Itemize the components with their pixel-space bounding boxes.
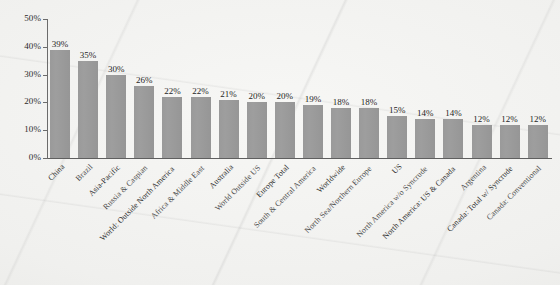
- bar-series: 39%35%30%26%22%22%21%20%20%19%18%18%15%1…: [48, 0, 556, 285]
- y-axis-tick-label: 0%: [1, 153, 41, 162]
- bar: [472, 125, 492, 158]
- bar-value-label: 26%: [136, 76, 153, 85]
- bar-value-label: 19%: [305, 95, 322, 104]
- bar: [303, 105, 323, 158]
- bar: [500, 125, 520, 158]
- bar: [247, 102, 267, 158]
- bar-value-label: 14%: [417, 109, 434, 118]
- bar-group: 22%: [162, 97, 182, 158]
- bar-value-label: 20%: [248, 92, 265, 101]
- y-axis-tick-label: 30%: [1, 70, 41, 79]
- bar-value-label: 12%: [529, 115, 546, 124]
- bar-group: 14%: [443, 119, 463, 158]
- bar-value-label: 35%: [80, 51, 97, 60]
- bar-group: 30%: [106, 75, 126, 158]
- bar-group: 12%: [528, 125, 548, 158]
- bar-group: 35%: [78, 61, 98, 158]
- bar: [528, 125, 548, 158]
- bar-value-label: 18%: [361, 98, 378, 107]
- y-axis-tick-label: 40%: [1, 42, 41, 51]
- bar-group: 18%: [359, 108, 379, 158]
- bar: [415, 119, 435, 158]
- bar-value-label: 15%: [389, 106, 406, 115]
- bar-value-label: 12%: [473, 115, 490, 124]
- bar-group: 15%: [387, 116, 407, 158]
- bar: [162, 97, 182, 158]
- bar: [387, 116, 407, 158]
- bar: [191, 97, 211, 158]
- bar-group: 39%: [50, 50, 70, 158]
- bar-group: 21%: [219, 100, 239, 158]
- bar-group: 20%: [247, 102, 267, 158]
- bar: [134, 86, 154, 158]
- bar-value-label: 12%: [501, 115, 518, 124]
- bar-group: 12%: [500, 125, 520, 158]
- bar-value-label: 22%: [164, 87, 181, 96]
- bar: [219, 100, 239, 158]
- bar-value-label: 14%: [445, 109, 462, 118]
- bar-group: 26%: [134, 86, 154, 158]
- bar-value-label: 20%: [277, 92, 294, 101]
- bar: [359, 108, 379, 158]
- bar-value-label: 39%: [52, 40, 69, 49]
- bar-value-label: 30%: [108, 65, 125, 74]
- y-axis-tick-label: 20%: [1, 97, 41, 106]
- bar: [331, 108, 351, 158]
- bar: [275, 102, 295, 158]
- bar-value-label: 22%: [192, 87, 209, 96]
- bar: [443, 119, 463, 158]
- bar: [106, 75, 126, 158]
- y-axis-tick-label: 10%: [1, 125, 41, 134]
- bar-group: 18%: [331, 108, 351, 158]
- bar-group: 22%: [191, 97, 211, 158]
- bar-chart: 0%10%20%30%40%50% 39%35%30%26%22%22%21%2…: [0, 0, 560, 285]
- bar: [78, 61, 98, 158]
- bar-group: 19%: [303, 105, 323, 158]
- bar-group: 20%: [275, 102, 295, 158]
- bar: [50, 50, 70, 158]
- bar-group: 14%: [415, 119, 435, 158]
- y-axis-tick-label: 50%: [1, 14, 41, 23]
- bar-group: 12%: [472, 125, 492, 158]
- bar-value-label: 18%: [333, 98, 350, 107]
- bar-value-label: 21%: [220, 90, 237, 99]
